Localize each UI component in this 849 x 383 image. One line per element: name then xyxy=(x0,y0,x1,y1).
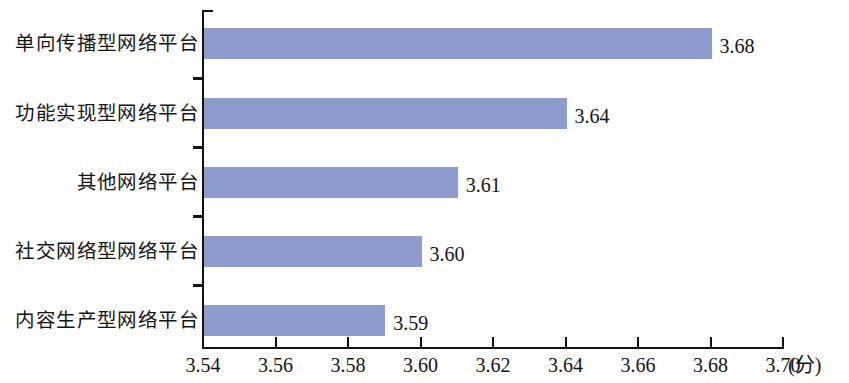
x-tick-label-5: 3.64 xyxy=(548,355,583,375)
bar-value-1: 3.64 xyxy=(575,106,610,126)
category-label-3: 社交网络型网络平台 xyxy=(0,242,199,262)
y-axis-tick xyxy=(193,284,203,287)
category-label-0: 单向传播型网络平台 xyxy=(0,34,199,54)
bar-4 xyxy=(204,305,385,336)
x-tick-label-0: 3.54 xyxy=(186,355,221,375)
x-tick-label-2: 3.58 xyxy=(331,355,366,375)
bar-value-2: 3.61 xyxy=(466,175,501,195)
x-axis-tick xyxy=(202,337,204,348)
x-tick-label-4: 3.62 xyxy=(476,355,511,375)
x-tick-label-1: 3.56 xyxy=(258,355,293,375)
x-axis-unit-label: (分) xyxy=(788,355,821,375)
x-axis-tick xyxy=(492,337,494,348)
x-tick-label-6: 3.66 xyxy=(621,355,656,375)
y-axis-top-cap xyxy=(202,10,213,12)
bar-chart: 单向传播型网络平台 功能实现型网络平台 其他网络平台 社交网络型网络平台 内容生… xyxy=(0,0,849,383)
y-axis-tick xyxy=(193,215,203,218)
x-axis-tick xyxy=(710,337,712,348)
bar-value-4: 3.59 xyxy=(393,313,428,333)
bar-0 xyxy=(204,28,712,59)
x-axis-tick xyxy=(565,337,567,348)
x-axis-tick xyxy=(275,337,277,348)
bar-1 xyxy=(204,98,567,129)
y-axis-tick xyxy=(193,146,203,149)
x-axis-tick xyxy=(420,337,422,348)
bar-3 xyxy=(204,236,422,267)
category-label-1: 功能实现型网络平台 xyxy=(0,104,199,124)
x-axis-tick xyxy=(347,337,349,348)
x-axis-tick xyxy=(782,337,784,348)
category-label-2: 其他网络平台 xyxy=(0,173,199,193)
bar-2 xyxy=(204,167,458,198)
x-axis-tick xyxy=(637,337,639,348)
x-tick-label-3: 3.60 xyxy=(403,355,438,375)
x-tick-label-7: 3.68 xyxy=(693,355,728,375)
bar-value-3: 3.60 xyxy=(430,244,465,264)
y-axis-tick xyxy=(193,77,203,80)
category-label-4: 内容生产型网络平台 xyxy=(0,311,199,331)
bar-value-0: 3.68 xyxy=(720,36,755,56)
